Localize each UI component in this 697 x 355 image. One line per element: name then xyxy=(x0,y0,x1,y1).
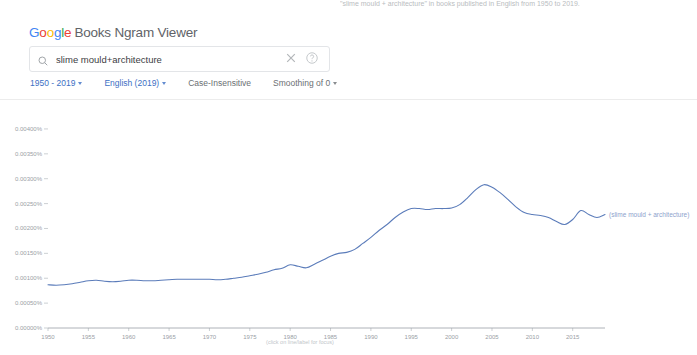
options-row: 1950 - 2019 English (2019) Case-Insensit… xyxy=(30,78,359,88)
x-axis-tick-label: 2015 xyxy=(566,334,580,340)
x-axis-tick-label: 1955 xyxy=(82,334,96,340)
logo-letter-o1: o xyxy=(39,25,46,40)
help-icon[interactable] xyxy=(305,51,321,67)
search-input[interactable] xyxy=(56,50,284,68)
x-axis-tick-label: 1950 xyxy=(41,334,55,340)
x-axis-tick-label: 1990 xyxy=(364,334,378,340)
x-axis-tick-label: 1970 xyxy=(203,334,217,340)
google-ngram-logo: GoogleBooks Ngram Viewer xyxy=(29,25,197,40)
y-axis-tick-label: 0.00400% xyxy=(15,126,43,132)
x-axis-tick-label: 2010 xyxy=(526,334,540,340)
smoothing-label: Smoothing of 0 xyxy=(273,78,330,88)
y-axis-tick-label: 0.00000% xyxy=(15,325,43,331)
x-axis-tick-label: 1975 xyxy=(243,334,257,340)
chevron-down-icon xyxy=(78,82,82,85)
series-legend-label[interactable]: (slime mould + architecture) xyxy=(609,211,689,219)
x-axis-tick-label: 1960 xyxy=(122,334,136,340)
chart-focus-hint: (click on line/label for focus) xyxy=(266,339,334,345)
y-axis-tick-label: 0.00150% xyxy=(15,250,43,256)
series-line-slime-mould-architecture[interactable] xyxy=(48,185,605,286)
chevron-down-icon xyxy=(333,82,337,85)
y-axis-tick-label: 0.00250% xyxy=(15,201,43,207)
header-divider xyxy=(0,99,697,100)
x-axis-tick-label: 2000 xyxy=(445,334,459,340)
year-range-label: 1950 - 2019 xyxy=(30,78,75,88)
logo-letter-e: e xyxy=(64,25,71,40)
y-axis-ticks: 0.00400%0.00350%0.00300%0.00250%0.00200%… xyxy=(15,126,48,331)
app-title: Books Ngram Viewer xyxy=(74,25,197,40)
search-icon xyxy=(37,53,49,65)
y-axis-tick-label: 0.00100% xyxy=(15,275,43,281)
ngram-chart[interactable]: 0.00400%0.00350%0.00300%0.00250%0.00200%… xyxy=(0,104,697,344)
corpus-selector[interactable]: English (2019) xyxy=(104,78,166,88)
x-axis-tick-label: 1995 xyxy=(405,334,419,340)
clipped-top-caption: "slime mould + architecture" in books pu… xyxy=(340,0,640,10)
y-axis-tick-label: 0.00050% xyxy=(15,300,43,306)
app-header: GoogleBooks Ngram Viewer xyxy=(29,25,197,40)
close-icon[interactable] xyxy=(284,51,300,67)
chevron-down-icon xyxy=(162,82,166,85)
y-axis-tick-label: 0.00200% xyxy=(15,225,43,231)
x-axis-tick-label: 1965 xyxy=(162,334,176,340)
year-range-selector[interactable]: 1950 - 2019 xyxy=(30,78,82,88)
logo-letter-o2: o xyxy=(47,25,54,40)
x-axis-tick-label: 2005 xyxy=(485,334,499,340)
y-axis-tick-label: 0.00350% xyxy=(15,151,43,157)
y-axis-tick-label: 0.00300% xyxy=(15,176,43,182)
logo-letter-g1: G xyxy=(29,25,39,40)
search-bar[interactable] xyxy=(29,46,330,72)
corpus-label: English (2019) xyxy=(104,78,159,88)
smoothing-selector[interactable]: Smoothing of 0 xyxy=(273,78,337,88)
case-sensitivity-label[interactable]: Case-Insensitive xyxy=(188,78,251,88)
